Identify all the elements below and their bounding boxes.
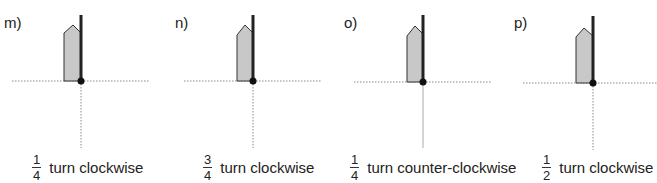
arrow-shape <box>576 28 593 83</box>
fraction-denominator: 4 <box>204 168 211 182</box>
fraction-numerator: 1 <box>350 153 359 168</box>
panel-p-diagram <box>523 16 657 150</box>
pivot-dot <box>590 80 597 87</box>
fraction: 1 4 <box>32 153 41 182</box>
arrow-shape <box>64 25 81 81</box>
fraction-numerator: 3 <box>203 153 212 168</box>
panel-o-caption: 1 4 turn counter-clockwise <box>350 153 516 182</box>
pivot-dot <box>420 79 427 86</box>
panel-p-caption: 1 2 turn clockwise <box>542 153 653 182</box>
instruction-text: turn clockwise <box>559 159 653 176</box>
fraction-denominator: 4 <box>33 168 40 182</box>
pivot-dot <box>78 78 85 85</box>
fraction-denominator: 4 <box>351 168 358 182</box>
panel-n-diagram <box>184 15 322 148</box>
fraction-denominator: 2 <box>543 168 550 182</box>
panel-m-caption: 1 4 turn clockwise <box>32 153 143 182</box>
pivot-dot <box>250 78 257 85</box>
panel-m-diagram <box>12 15 150 148</box>
instruction-text: turn counter-clockwise <box>367 159 516 176</box>
fraction: 1 4 <box>350 153 359 182</box>
instruction-text: turn clockwise <box>220 159 314 176</box>
fraction: 1 2 <box>542 153 551 182</box>
fraction: 3 4 <box>203 153 212 182</box>
panel-p-label: p) <box>514 14 527 31</box>
panel-n-caption: 3 4 turn clockwise <box>203 153 314 182</box>
arrow-shape <box>407 26 423 82</box>
panel-m-label: m) <box>4 14 22 31</box>
panel-o-diagram <box>354 15 492 148</box>
panel-n-label: n) <box>175 14 188 31</box>
panel-o-label: o) <box>344 14 357 31</box>
fraction-numerator: 1 <box>542 153 551 168</box>
instruction-text: turn clockwise <box>49 159 143 176</box>
fraction-numerator: 1 <box>32 153 41 168</box>
arrow-shape <box>237 25 253 81</box>
